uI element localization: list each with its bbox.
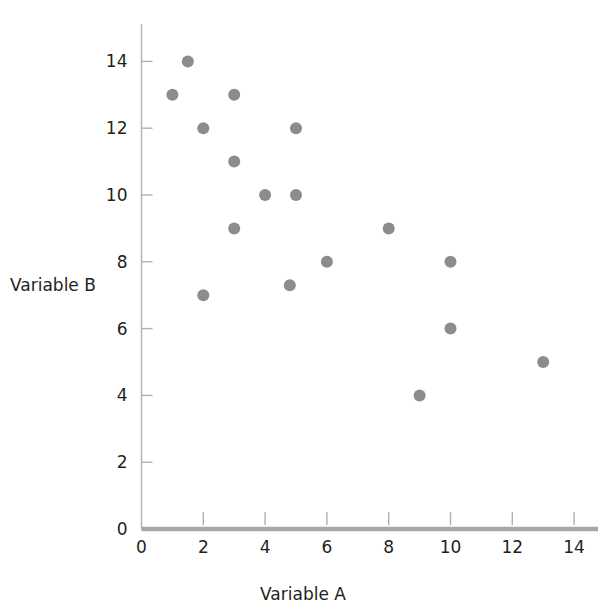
data-point — [445, 256, 457, 268]
data-point — [228, 89, 240, 101]
chart-canvas: 02468101214 02468101214 Variable A Varia… — [0, 0, 607, 616]
data-point — [166, 89, 178, 101]
x-tick-label: 10 — [440, 537, 462, 557]
x-tick-label: 6 — [321, 537, 332, 557]
data-point — [321, 256, 333, 268]
y-tick-label: 12 — [106, 118, 128, 138]
y-tick-label: 4 — [117, 385, 128, 405]
data-point — [228, 222, 240, 234]
data-point — [445, 323, 457, 335]
data-point — [290, 122, 302, 134]
data-point — [537, 356, 549, 368]
data-point — [182, 55, 194, 67]
data-point — [197, 122, 209, 134]
data-point — [197, 289, 209, 301]
y-tick-label: 8 — [117, 252, 128, 272]
x-tick-label: 14 — [563, 537, 585, 557]
data-point — [290, 189, 302, 201]
data-points — [166, 55, 549, 401]
x-tick-label: 0 — [136, 537, 147, 557]
data-point — [259, 189, 271, 201]
y-tick-label: 2 — [117, 452, 128, 472]
x-tick-label: 2 — [198, 537, 209, 557]
data-point — [414, 389, 426, 401]
y-tick-label: 14 — [106, 51, 128, 71]
data-point — [383, 222, 395, 234]
y-axis: 02468101214 — [106, 24, 153, 539]
x-tick-label: 12 — [501, 537, 523, 557]
data-point — [228, 156, 240, 168]
x-axis: 02468101214 — [136, 512, 598, 557]
data-point — [284, 279, 296, 291]
x-tick-label: 4 — [260, 537, 271, 557]
y-axis-title: Variable B — [10, 275, 96, 295]
scatter-chart: 02468101214 02468101214 Variable A Varia… — [0, 0, 607, 616]
y-tick-label: 6 — [117, 319, 128, 339]
x-axis-title: Variable A — [260, 584, 346, 604]
y-tick-label: 10 — [106, 185, 128, 205]
y-tick-label: 0 — [117, 519, 128, 539]
x-tick-label: 8 — [383, 537, 394, 557]
